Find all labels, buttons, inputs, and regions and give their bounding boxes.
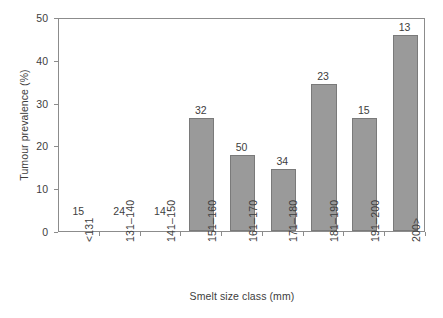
x-tick-mark bbox=[384, 232, 385, 236]
bar-value-label: 32 bbox=[195, 104, 207, 116]
x-tick-mark bbox=[180, 232, 181, 236]
x-axis: 15<13124131–14014141–15032151–16050161–1… bbox=[0, 0, 443, 318]
x-tick-label: 131–140 bbox=[124, 200, 136, 242]
x-tick-mark bbox=[303, 232, 304, 236]
x-tick-label: 171–180 bbox=[287, 200, 299, 242]
x-tick-label: 141–150 bbox=[165, 200, 177, 242]
x-axis-title: Smelt size class (mm) bbox=[58, 290, 426, 302]
x-tick-mark bbox=[140, 232, 141, 236]
x-tick-mark bbox=[425, 232, 426, 236]
bar-value-label: 13 bbox=[399, 21, 411, 33]
x-tick-mark bbox=[262, 232, 263, 236]
bar-value-label: 23 bbox=[317, 70, 329, 82]
bar-value-label: 34 bbox=[276, 155, 288, 167]
x-tick-label: 151–160 bbox=[206, 200, 218, 242]
x-tick-mark bbox=[343, 232, 344, 236]
x-tick-mark bbox=[221, 232, 222, 236]
x-tick-label: 200> bbox=[410, 218, 422, 242]
x-tick-label: 191–200 bbox=[369, 200, 381, 242]
x-tick-label: <131 bbox=[83, 218, 95, 242]
x-tick-mark bbox=[99, 232, 100, 236]
x-tick-label: 181–190 bbox=[328, 200, 340, 242]
chart-figure: Tumour prevalence (%) 01020304050 15<131… bbox=[0, 0, 443, 318]
x-tick-label: 161–170 bbox=[247, 200, 259, 242]
bar-value-label: 50 bbox=[236, 141, 248, 153]
bar-value-label: 15 bbox=[73, 205, 85, 217]
bar-value-label: 15 bbox=[358, 104, 370, 116]
